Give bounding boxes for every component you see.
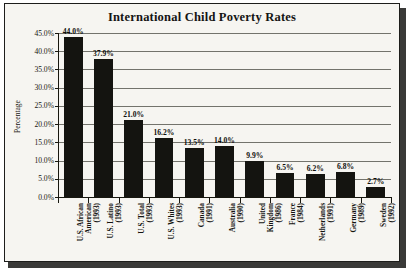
x-axis-category-label: Netherlands (1991) xyxy=(319,203,335,241)
x-axis-tick-mark xyxy=(58,198,59,203)
y-axis-tick-mark xyxy=(55,142,59,143)
x-axis-category-label: U.S. African American (1993) xyxy=(77,203,101,241)
y-axis-tick-mark xyxy=(55,179,59,180)
bar[interactable] xyxy=(94,59,113,197)
x-axis-category-label: Sweden (1992) xyxy=(380,203,396,227)
bar-value-label: 2.7% xyxy=(353,177,399,186)
y-axis-tick-mark xyxy=(55,88,59,89)
x-axis-line xyxy=(58,197,392,198)
bar[interactable] xyxy=(276,173,295,197)
chart-screenshot: International Child Poverty Rates Percen… xyxy=(0,0,409,271)
y-axis-tick-mark xyxy=(55,124,59,125)
bar-value-label: 6.8% xyxy=(322,162,368,171)
y-axis-tick-label: 15.0% xyxy=(14,138,54,147)
x-axis-category-label: Germany (1989) xyxy=(350,203,366,233)
y-axis-tick-label: 10.0% xyxy=(14,156,54,165)
y-axis-tick-label: 40.0% xyxy=(14,47,54,56)
bar[interactable] xyxy=(185,148,204,197)
y-axis-tick-label: 20.0% xyxy=(14,120,54,129)
x-axis-category-label: France (1984) xyxy=(289,203,305,225)
bar-value-label: 37.9% xyxy=(80,49,126,58)
gridline xyxy=(58,33,391,34)
bar[interactable] xyxy=(366,187,385,197)
plot-wrapper: Percentage 0.0%5.0%10.0%15.0%20.0%25.0%3… xyxy=(5,4,401,263)
y-axis-tick-mark xyxy=(55,106,59,107)
x-axis-category-label: Australia (1990) xyxy=(229,203,245,232)
y-axis-tick-label: 0.0% xyxy=(14,193,54,202)
x-axis-category-label: U.S. Whites (1993) xyxy=(168,203,184,240)
x-axis-category-label: U.S. Latino (1993) xyxy=(107,203,123,238)
y-axis-tick-label: 35.0% xyxy=(14,65,54,74)
bar-value-label: 44.0% xyxy=(50,27,96,36)
y-axis-tick-mark xyxy=(55,161,59,162)
bar[interactable] xyxy=(306,174,325,197)
bar-value-label: 14.0% xyxy=(201,136,247,145)
y-axis-tick-mark xyxy=(55,51,59,52)
x-axis-category-label: U.S. Total (1993) xyxy=(138,203,154,234)
bar-value-label: 21.0% xyxy=(111,110,157,119)
y-axis-tick-label: 25.0% xyxy=(14,101,54,110)
bar[interactable] xyxy=(64,37,83,197)
bar-value-label: 9.9% xyxy=(232,151,278,160)
y-axis-tick-mark xyxy=(55,69,59,70)
y-axis-tick-label: 45.0% xyxy=(14,29,54,38)
bar[interactable] xyxy=(155,138,174,197)
y-axis-tick-label: 5.0% xyxy=(14,174,54,183)
x-axis-category-label: United Kingdom (1986) xyxy=(259,203,283,232)
x-axis-category-label: Canada (1991) xyxy=(198,203,214,227)
bar-value-label: 16.2% xyxy=(141,128,187,137)
chart-figure-frame: International Child Poverty Rates Percen… xyxy=(4,3,400,262)
y-axis-tick-label: 30.0% xyxy=(14,83,54,92)
